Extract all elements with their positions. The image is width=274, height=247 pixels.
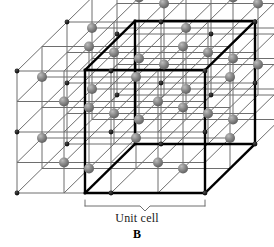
unit-cell-bracket	[85, 200, 205, 211]
corner-lattice-dot	[209, 93, 214, 98]
corner-lattice-dot	[109, 69, 114, 74]
corner-lattice-dot	[15, 69, 20, 74]
face-center-sphere	[109, 48, 119, 58]
face-center-sphere	[84, 103, 94, 113]
face-center-sphere	[37, 133, 47, 143]
face-center-sphere	[134, 115, 144, 125]
lattice-points	[15, 0, 274, 195]
corner-lattice-dot	[159, 20, 164, 25]
face-center-sphere	[181, 23, 191, 33]
face-center-sphere	[84, 42, 94, 52]
corner-lattice-dot	[203, 191, 208, 196]
crystal-lattice-svg	[0, 0, 274, 247]
face-center-sphere	[228, 115, 238, 125]
face-center-sphere	[84, 164, 94, 174]
corner-lattice-dot	[253, 20, 258, 25]
corner-lattice-dot	[65, 81, 70, 86]
corner-lattice-dot	[253, 81, 258, 86]
corner-lattice-dot	[115, 32, 120, 37]
corner-lattice-dot	[253, 142, 258, 147]
corner-lattice-dot	[15, 130, 20, 135]
face-center-sphere	[181, 84, 191, 94]
face-center-sphere	[87, 23, 97, 33]
face-center-sphere	[131, 133, 141, 143]
face-center-sphere	[153, 158, 163, 168]
corner-lattice-dot	[159, 142, 164, 147]
face-center-sphere	[203, 48, 213, 58]
face-center-sphere	[159, 60, 169, 70]
corner-lattice-dot	[203, 69, 208, 74]
corner-lattice-dot	[109, 130, 114, 135]
face-center-sphere	[225, 133, 235, 143]
corner-lattice-dot	[159, 81, 164, 86]
face-center-sphere	[178, 103, 188, 113]
corner-lattice-dot	[209, 32, 214, 37]
lattice-figure	[0, 0, 274, 247]
face-center-sphere	[203, 109, 213, 119]
corner-lattice-dot	[203, 130, 208, 135]
face-center-sphere	[87, 84, 97, 94]
face-center-sphere	[178, 164, 188, 174]
face-center-sphere	[178, 42, 188, 52]
face-center-sphere	[228, 54, 238, 64]
corner-lattice-dot	[65, 20, 70, 25]
corner-lattice-dot	[109, 191, 114, 196]
face-center-sphere	[59, 158, 69, 168]
face-center-sphere	[109, 109, 119, 119]
unit-cell-bracket-path	[85, 200, 205, 211]
face-center-sphere	[253, 60, 263, 70]
corner-lattice-dot	[15, 191, 20, 196]
face-center-sphere	[37, 72, 47, 82]
face-center-sphere	[59, 97, 69, 107]
face-center-sphere	[134, 54, 144, 64]
corner-lattice-dot	[65, 142, 70, 147]
face-center-sphere	[153, 97, 163, 107]
corner-lattice-dot	[115, 93, 120, 98]
face-center-sphere	[131, 72, 141, 82]
face-center-sphere	[225, 72, 235, 82]
